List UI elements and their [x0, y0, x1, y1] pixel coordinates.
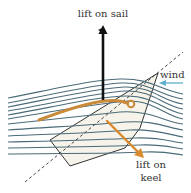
wind-arrowhead-icon — [159, 80, 166, 86]
lift-on-sail-label: lift on sail — [78, 8, 128, 19]
lift-on-keel-label-line1: lift on — [136, 159, 166, 170]
wind-label: wind — [160, 69, 185, 80]
lift-on-keel-label-line2: keel — [140, 172, 161, 183]
lift-on-sail-arrowhead-icon — [99, 25, 108, 34]
sailboat-lift-diagram: lift on sail wind lift on keel — [0, 0, 191, 193]
